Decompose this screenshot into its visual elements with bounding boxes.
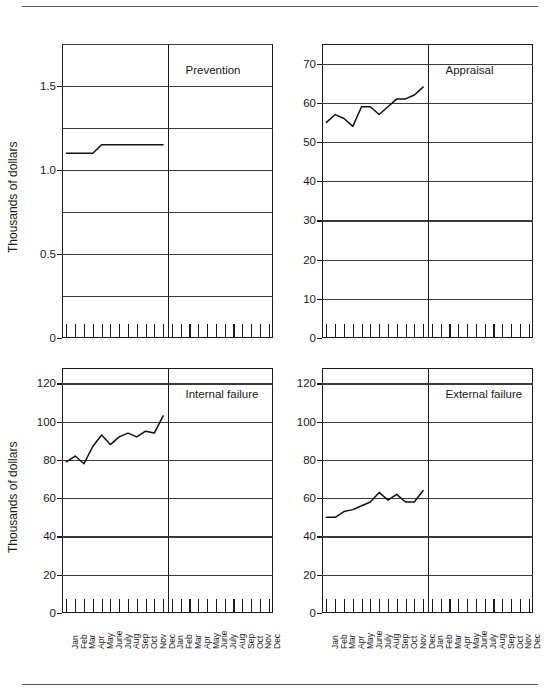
data-series-line — [0, 0, 560, 693]
series-polyline — [326, 491, 423, 518]
